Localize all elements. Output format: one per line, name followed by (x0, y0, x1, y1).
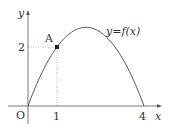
y-axis-arrow-icon (26, 10, 30, 15)
origin-label: O (16, 109, 25, 122)
curve-label: y=f(x) (105, 25, 140, 38)
xtick-label-4: 4 (139, 110, 146, 123)
x-axis-arrow-icon (157, 104, 162, 108)
y-axis-label: y (17, 7, 25, 20)
x-axis-label: x (155, 110, 162, 123)
xtick-label-1: 1 (53, 110, 60, 123)
point-a-label: A (44, 32, 54, 45)
function-graph: y x O 2 1 4 A y=f(x) (0, 0, 170, 128)
ytick-label-2: 2 (18, 41, 25, 54)
point-a-marker (55, 45, 59, 49)
